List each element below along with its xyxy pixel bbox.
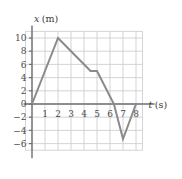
y-tick-label: 6 [21,60,27,70]
x-tick-label: 3 [68,109,74,119]
y-tick-label: −2 [13,112,26,122]
chart-canvas: −6−4−2024681012345678 x(m)t(s) [0,0,182,179]
y-tick-label: 8 [21,46,27,56]
y-tick-label: 0 [21,99,27,109]
y-axis-title: x(m) [34,13,58,24]
y-tick-label: 4 [21,73,27,83]
axis-titles: x(m)t(s) [34,13,167,109]
x-tick-label: 1 [42,109,48,119]
y-tick-label: 10 [15,33,27,43]
y-tick-label: −6 [13,139,27,149]
x-tick-label: 4 [81,109,87,119]
x-tick-label: 2 [55,109,61,119]
x-tick-label: 6 [107,109,113,119]
x-tick-label: 5 [94,109,100,119]
position-time-chart: −6−4−2024681012345678 x(m)t(s) [0,0,182,179]
y-tick-label: 2 [21,86,27,96]
y-tick-label: −4 [13,126,27,136]
x-axis-title: t(s) [149,99,168,110]
x-tick-label: 8 [133,109,139,119]
x-tick-label: 7 [120,109,126,119]
axes [24,25,155,158]
